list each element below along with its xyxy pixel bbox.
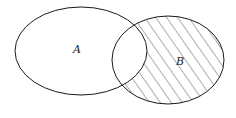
shaded-region-b-minus-a xyxy=(100,0,236,118)
set-a-label: A xyxy=(72,43,81,56)
set-b-label: B xyxy=(175,55,184,68)
venn-diagram: A B xyxy=(0,0,236,118)
